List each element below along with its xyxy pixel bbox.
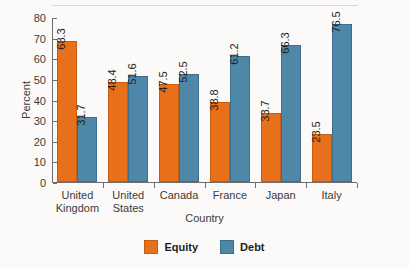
bar-value-label: 38.8 [209, 89, 220, 110]
category-label-line: Canada [154, 189, 205, 202]
y-tick-mark [53, 18, 57, 19]
bar-value-label: 66.3 [280, 33, 291, 54]
bar-debt: 51.6 [128, 76, 148, 182]
legend-item-equity[interactable]: Equity [144, 240, 198, 254]
top-divider [52, 5, 358, 6]
category-label: Canada [154, 189, 205, 202]
y-tick-mark [53, 101, 57, 102]
chart-legend: EquityDebt [0, 240, 409, 254]
bar-value-label: 51.6 [127, 63, 138, 84]
plot-area: 01020304050607080 68.331.748.451.647.552… [52, 18, 357, 183]
bar-debt: 76.5 [332, 24, 352, 182]
y-tick-label: 60 [34, 54, 46, 65]
bar-value-label: 47.5 [158, 71, 169, 92]
category-label-line: Italy [306, 189, 357, 202]
x-tick-mark [306, 183, 307, 188]
x-tick-mark [357, 183, 358, 188]
y-tick-label: 80 [34, 13, 46, 24]
x-axis-title: Country [0, 212, 409, 224]
y-tick-mark [53, 121, 57, 122]
bar-equity: 38.8 [210, 102, 230, 182]
x-tick-mark [255, 183, 256, 188]
bar-debt: 52.5 [179, 74, 199, 182]
y-tick-label: 70 [34, 33, 46, 44]
bar-equity: 48.4 [108, 82, 128, 182]
bar-value-label: 31.7 [76, 104, 87, 125]
y-tick-label: 40 [34, 95, 46, 106]
bar-value-label: 48.4 [107, 69, 118, 90]
x-tick-mark [103, 183, 104, 188]
bar-value-label: 68.3 [56, 28, 67, 49]
bar-equity: 33.7 [261, 113, 281, 183]
y-tick-label: 0 [40, 178, 46, 189]
category-label-line: United [52, 189, 103, 202]
bar-equity: 23.5 [312, 134, 332, 182]
bar-value-label: 33.7 [260, 100, 271, 121]
y-axis-title: Percent [20, 81, 32, 119]
category-label-line: United [103, 189, 154, 202]
bar-debt: 61.2 [230, 56, 250, 182]
legend-swatch-equity [144, 240, 158, 254]
category-label-line: Japan [255, 189, 306, 202]
x-tick-mark [205, 183, 206, 188]
bar-value-label: 76.5 [331, 12, 342, 33]
bar-equity: 47.5 [159, 84, 179, 182]
bar-value-label: 61.2 [229, 43, 240, 64]
bar-debt: 31.7 [77, 117, 97, 182]
bar-value-label: 23.5 [311, 121, 322, 142]
y-tick-label: 10 [34, 157, 46, 168]
category-label: France [205, 189, 256, 202]
bar-chart-figure: Percent 01020304050607080 68.331.748.451… [0, 0, 409, 268]
y-tick-label: 30 [34, 116, 46, 127]
x-tick-mark [154, 183, 155, 188]
bar-value-label: 52.5 [178, 61, 189, 82]
legend-label: Equity [164, 242, 198, 253]
legend-label: Debt [240, 242, 264, 253]
category-label: Japan [255, 189, 306, 202]
y-tick-label: 20 [34, 136, 46, 147]
y-tick-mark [53, 80, 57, 81]
bar-debt: 66.3 [281, 45, 301, 182]
y-tick-mark [53, 59, 57, 60]
y-tick-mark [53, 162, 57, 163]
y-tick-mark [53, 142, 57, 143]
legend-swatch-debt [220, 240, 234, 254]
y-tick-label: 50 [34, 74, 46, 85]
category-label: Italy [306, 189, 357, 202]
y-tick-mark [53, 183, 57, 184]
legend-item-debt[interactable]: Debt [220, 240, 264, 254]
category-label-line: France [205, 189, 256, 202]
